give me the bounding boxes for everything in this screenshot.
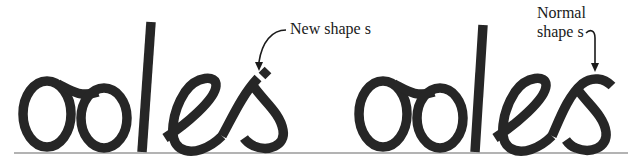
arrowhead-icon (591, 63, 599, 72)
letter-e (495, 78, 552, 151)
letter-s-normal (552, 79, 612, 150)
arrow-curve-icon (586, 31, 595, 63)
arrow-curve-icon (259, 30, 286, 62)
letter-d-bowl (81, 88, 127, 148)
letter-d-bowl (417, 88, 463, 148)
letter-e (165, 78, 222, 151)
letter-d-stem (142, 22, 151, 152)
word-odes-normal (359, 25, 612, 152)
arrow-normal-shape (586, 31, 599, 72)
new-shape-label: New shape s (290, 20, 371, 38)
letter-s-new (222, 70, 283, 148)
word-odes-new (23, 22, 283, 152)
odes-letterform-diagram: New shape s Normal shape s (0, 0, 640, 163)
arrow-new-shape (255, 30, 286, 71)
letter-d-stem (475, 25, 483, 152)
normal-shape-label-line1: Normal (537, 3, 586, 22)
normal-shape-label: Normal shape s (537, 3, 586, 41)
normal-shape-label-line2: shape s (537, 22, 586, 41)
